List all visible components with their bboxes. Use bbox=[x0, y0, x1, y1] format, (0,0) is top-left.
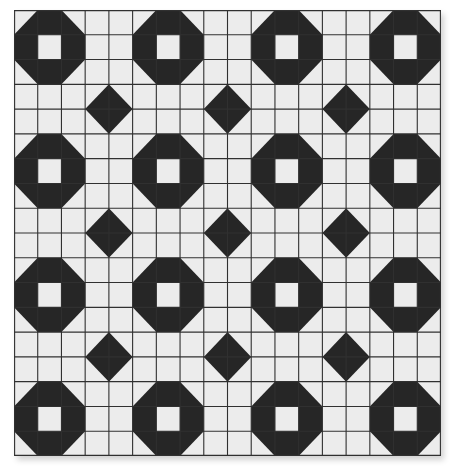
quilt-pattern: Octagon and diamond quilt block pattern bbox=[14, 10, 441, 456]
octagon-center bbox=[394, 283, 418, 308]
octagon-center bbox=[38, 35, 62, 60]
octagon-center bbox=[275, 283, 299, 308]
octagon-center bbox=[394, 159, 418, 184]
octagon-center bbox=[38, 159, 62, 184]
octagon-center bbox=[156, 159, 180, 184]
octagon-center bbox=[38, 283, 62, 308]
octagon-center bbox=[156, 406, 180, 431]
octagon-center bbox=[156, 35, 180, 60]
octagon-center bbox=[275, 406, 299, 431]
quilt-grid bbox=[14, 10, 441, 456]
octagon-center bbox=[394, 35, 418, 60]
octagon-center bbox=[275, 35, 299, 60]
octagon-center bbox=[394, 406, 418, 431]
octagon-center bbox=[38, 406, 62, 431]
octagon-center bbox=[275, 159, 299, 184]
octagon-center bbox=[156, 283, 180, 308]
